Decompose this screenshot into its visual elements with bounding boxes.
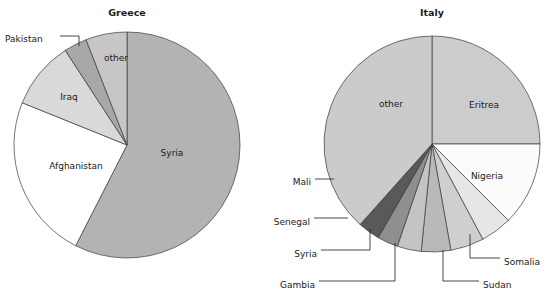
slice-label-greece-afghanistan: Afghanistan [49, 161, 103, 171]
slice-label-italy-senegal: Senegal [274, 217, 310, 227]
slice-label-italy-nigeria: Nigeria [471, 171, 503, 181]
slice-label-italy-other: other [379, 99, 403, 109]
slice-label-italy-eritrea: Eritrea [469, 100, 499, 110]
slice-label-greece-pakistan: Pakistan [5, 34, 43, 44]
slice-label-italy-syria: Syria [294, 249, 317, 259]
figure-canvas: GreeceSyriaAfghanistanIraqPakistanotherS… [0, 0, 549, 297]
slice-group-greece: SyriaAfghanistanIraqPakistanother [14, 32, 240, 258]
slice-label-italy-gambia: Gambia [280, 280, 315, 290]
slice-label-italy-mali: Mali [293, 177, 311, 187]
slice-label-greece-iraq: Iraq [60, 92, 78, 102]
chart-title-italy: Italy [420, 7, 445, 18]
chart-title-greece: Greece [108, 7, 145, 18]
slice-label-italy-somalia: Somalia [504, 257, 540, 267]
slice-label-greece-syria: Syria [161, 148, 184, 158]
slice-label-greece-other: other [104, 53, 128, 63]
slice-label-italy-sudan: Sudan [483, 280, 511, 290]
pie-chart-figure: GreeceSyriaAfghanistanIraqPakistanotherS… [0, 0, 549, 297]
slice-group-italy: EritreaNigeriaSomaliaSudanGambiaSyriaSen… [324, 36, 540, 252]
